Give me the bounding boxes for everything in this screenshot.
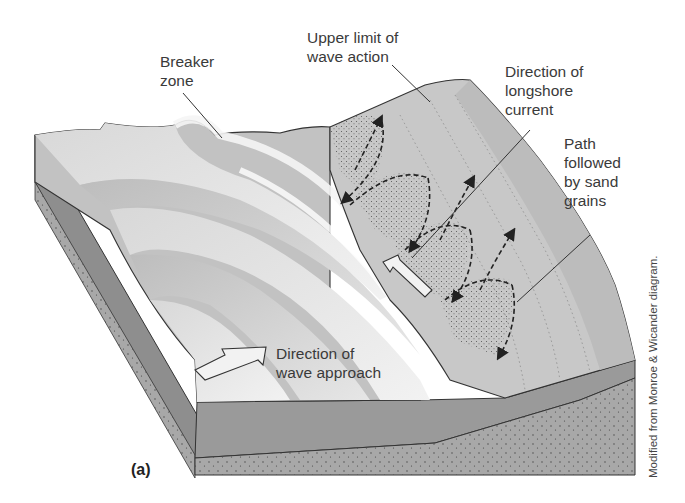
image-credit: Modified from Monroe & Wicander diagram. [647,256,659,478]
upper-limit-label: Upper limit of wave action [307,28,398,66]
breaker-zone-label: Breaker zone [160,52,214,90]
longshore-current-diagram: Breaker zone Upper limit of wave action … [0,0,685,503]
panel-label: (a) [131,461,151,479]
wave-approach-label: Direction of wave approach [276,344,381,382]
longshore-current-label: Direction of longshore current [505,62,583,119]
sand-path-label: Path followed by sand grains [564,134,621,210]
